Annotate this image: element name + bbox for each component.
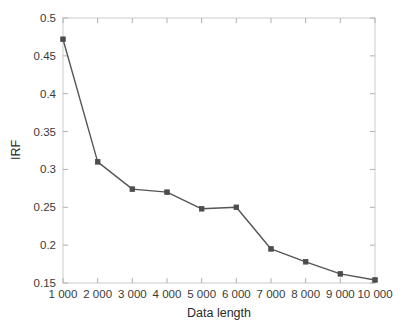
data-point-marker — [165, 190, 170, 195]
axes-frame — [63, 18, 375, 283]
data-point-marker — [61, 37, 66, 42]
data-point-marker — [95, 160, 100, 165]
data-point-marker — [338, 272, 343, 277]
x-tick-label: 1 000 — [49, 288, 78, 300]
x-tick-label: 6 000 — [222, 288, 251, 300]
x-tick-label: 8 000 — [291, 288, 320, 300]
x-tick-label: 10 000 — [357, 288, 392, 300]
y-tick-label: 0.2 — [40, 239, 56, 251]
data-point-marker — [199, 207, 204, 212]
data-point-marker — [303, 260, 308, 265]
data-point-marker — [269, 247, 274, 252]
x-tick-label: 2 000 — [83, 288, 112, 300]
figure-canvas: 0.150.20.250.30.350.40.450.5 1 0002 0003… — [0, 0, 414, 331]
x-tick-label: 5 000 — [187, 288, 216, 300]
x-tick-label: 7 000 — [257, 288, 286, 300]
data-point-marker — [373, 278, 378, 283]
x-tick-label: 9 000 — [326, 288, 355, 300]
y-tick-label: 0.4 — [40, 88, 57, 100]
y-tick-label: 0.5 — [40, 12, 56, 24]
data-point-marker — [234, 205, 239, 210]
irf-vs-data-length-line-chart: 0.150.20.250.30.350.40.450.5 1 0002 0003… — [0, 0, 414, 331]
x-tick-label: 4 000 — [153, 288, 182, 300]
y-tick-label: 0.35 — [34, 126, 56, 138]
y-tick-label: 0.3 — [40, 163, 56, 175]
y-tick-label: 0.45 — [34, 50, 56, 62]
x-axis-title: Data length — [187, 306, 251, 320]
data-point-marker — [130, 187, 135, 192]
y-tick-label: 0.25 — [34, 201, 56, 213]
y-axis-title: IRF — [9, 140, 23, 161]
x-tick-label: 3 000 — [118, 288, 147, 300]
